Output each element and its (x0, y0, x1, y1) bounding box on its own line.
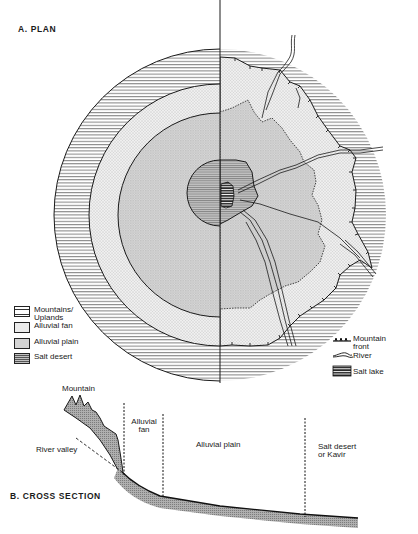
legend-item-mountains: Mountains/ Uplands (14, 306, 73, 322)
plan-title: A. PLAN (18, 24, 56, 34)
alluvial-plain-swatch (14, 338, 30, 349)
cross-section-title: B. CROSS SECTION (10, 491, 101, 501)
legend-label-river: River (353, 352, 372, 360)
label-river-valley: River valley (36, 446, 77, 454)
label-salt-desert-line2: or Kavir (318, 451, 356, 459)
label-alluvial-fan: Alluvial fan (128, 418, 160, 434)
label-salt-desert-kavir: Salt desert or Kavir (318, 443, 356, 459)
salt-desert-swatch (14, 353, 30, 364)
legend-label-alluvial-plain: Alluvial plain (34, 338, 78, 346)
legend-label-alluvial-fan: Alluvial fan (34, 322, 73, 330)
salt-lake-symbol (333, 366, 351, 376)
legend-item-alluvial-plain: Alluvial plain (14, 338, 78, 349)
cross-section-profile (64, 395, 358, 528)
label-mountain: Mountain (62, 385, 95, 393)
salt-lake (221, 182, 234, 208)
mountains-swatch (14, 306, 30, 317)
legend-item-alluvial-fan: Alluvial fan (14, 322, 73, 333)
label-alluvial-fan-line2: fan (128, 426, 160, 434)
legend-label-salt-lake: Salt lake (353, 368, 384, 376)
legend-item-salt-desert: Salt desert (14, 353, 72, 364)
river-symbol (333, 353, 353, 358)
legend-label-front: front (353, 343, 386, 351)
legend-label-salt-desert: Salt desert (34, 353, 72, 361)
legend-label-mountain-front: Mountain front (353, 335, 386, 351)
mountain-front-symbol (333, 338, 351, 341)
alluvial-fan-swatch (14, 322, 30, 333)
label-alluvial-plain: Alluvial plain (196, 441, 240, 449)
